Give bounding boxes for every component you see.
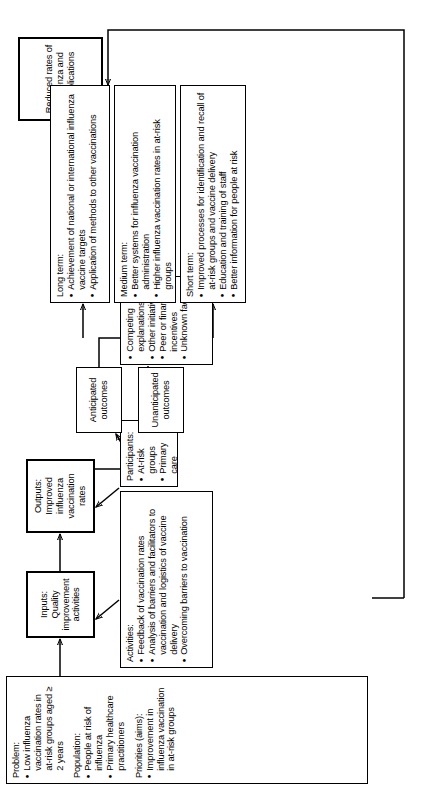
anticipated-outcomes-box: Anticipated outcomes <box>76 367 122 433</box>
participants-list: At-risk groups Primary care practitioner… <box>136 426 178 481</box>
short-term-heading: Short term: <box>185 91 196 297</box>
list-item: People at risk of influenza <box>83 682 105 778</box>
diagram-canvas: Problem: Low influenza vaccination rates… <box>0 0 428 790</box>
list-item: Application of methods to other vaccinat… <box>88 91 99 297</box>
medium-term-list: Better systems for influenza vaccination… <box>130 91 174 297</box>
inputs-label: Inputs: Quality improvement activities <box>39 576 83 633</box>
context-heading-problem: Problem: <box>11 682 22 778</box>
list-item: Education and training of staff <box>218 91 229 297</box>
medium-term-heading: Medium term: <box>119 91 130 297</box>
diagram-page: Problem: Low influenza vaccination rates… <box>0 0 428 790</box>
list-item: Higher influenza vaccination rates in at… <box>152 91 174 297</box>
context-heading-priorities: Priorities (aims): <box>134 682 145 778</box>
anticipated-outcomes-label: Anticipated outcomes <box>88 371 110 429</box>
long-term-box: Long term: Achievement of national or in… <box>50 85 110 303</box>
link-inputs-to-activities <box>96 600 119 619</box>
list-item: At-risk groups <box>136 426 158 481</box>
unanticipated-outcomes-box: Unanticipated outcomes <box>138 367 184 433</box>
context-heading-population: Population: <box>72 682 83 778</box>
long-term-list: Achievement of national or international… <box>66 91 99 297</box>
list-item: Overcoming barriers to vaccination <box>179 497 190 662</box>
participants-heading: Participants: <box>125 426 136 481</box>
activities-box: Activities: Feedback of vaccination rate… <box>120 491 213 668</box>
short-term-box: Short term: Improved processes for ident… <box>180 85 246 303</box>
list-item: Primary healthcare practitioners <box>105 682 127 778</box>
activities-list: Feedback of vaccination rates Analysis o… <box>136 497 190 662</box>
short-term-list: Improved processes for identification an… <box>196 91 240 297</box>
outputs-label: Outputs: Improved influenza vaccination … <box>33 464 87 528</box>
list-item: Improved processes for identification an… <box>196 91 218 297</box>
activities-heading: Activities: <box>125 497 136 662</box>
medium-term-box: Medium term: Better systems for influenz… <box>114 85 176 303</box>
link-outputs-to-participants <box>96 488 119 507</box>
context-box: Problem: Low influenza vaccination rates… <box>6 676 368 784</box>
long-term-heading: Long term: <box>55 91 66 297</box>
list-item: Feedback of vaccination rates <box>136 497 147 662</box>
list-item: Achievement of national or international… <box>66 91 88 297</box>
context-section-priorities: Priorities (aims): Improvement in influe… <box>134 682 178 778</box>
context-list-priorities: Improvement in influenza vaccination in … <box>145 682 178 778</box>
list-item: Better information for people at risk <box>229 91 240 297</box>
context-section-problem: Problem: Low influenza vaccination rates… <box>11 682 65 778</box>
list-item: Improvement in influenza vaccination in … <box>145 682 178 778</box>
list-item: Primary care practitioners <box>158 426 178 481</box>
inputs-box: Inputs: Quality improvement activities <box>26 571 95 638</box>
list-item: Low influenza vaccination rates in at-ri… <box>22 682 66 778</box>
context-section-population: Population: People at risk of influenza … <box>72 682 126 778</box>
outputs-box: Outputs: Improved influenza vaccination … <box>26 459 95 533</box>
list-item: Analysis of barriers and facilitators to… <box>147 497 180 662</box>
context-list-problem: Low influenza vaccination rates in at-ri… <box>22 682 66 778</box>
rotated-diagram-wrapper: Problem: Low influenza vaccination rates… <box>0 0 428 790</box>
context-list-population: People at risk of influenza Primary heal… <box>83 682 127 778</box>
unanticipated-outcomes-label: Unanticipated outcomes <box>150 371 172 429</box>
list-item: Better systems for influenza vaccination… <box>130 91 152 297</box>
